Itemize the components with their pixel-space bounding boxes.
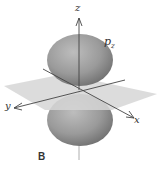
x-axis-label: x	[134, 115, 140, 125]
y-axis-label: y	[5, 101, 11, 111]
orbital-letter: p	[104, 35, 111, 48]
panel-label: B	[38, 152, 45, 162]
z-axis-label: z	[75, 3, 80, 13]
orbital-label: pz	[104, 36, 115, 50]
orbital-graphic	[0, 0, 160, 172]
pz-orbital-diagram: z x y pz B	[0, 0, 160, 172]
orbital-subscript: z	[111, 42, 115, 50]
